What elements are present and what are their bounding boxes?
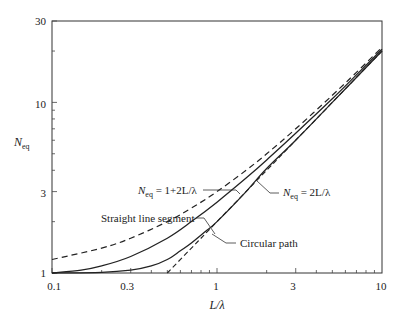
x-tick-1: 1	[213, 280, 219, 292]
x-tick-3: 3	[290, 280, 296, 292]
x-axis-label: L/λ	[208, 298, 224, 312]
y-tick-1: 1	[41, 267, 47, 279]
x-tick-0.3: 0.3	[120, 280, 134, 292]
annotation-1-plus-2L: Neq = 1+2L/λ	[137, 184, 198, 199]
y-tick-3: 3	[41, 187, 47, 199]
curve-1-plus-2L	[52, 47, 382, 259]
annotation-straight-line-segment: Straight line segment	[101, 212, 194, 224]
y-tick-30: 30	[35, 15, 47, 27]
annotation-2L: Neq = 2L/λ	[282, 186, 331, 201]
chart: 30 10 3 1 0.1 0.3 1 3 10 Neq L/λ Neq = 1…	[0, 0, 400, 324]
curve-straight-line-segment	[52, 49, 382, 273]
leader-1	[203, 190, 240, 194]
x-tick-10: 10	[376, 280, 388, 292]
annotation-circular-path: Circular path	[240, 237, 298, 249]
y-tick-10: 10	[35, 98, 47, 110]
curve-circular-path	[52, 51, 382, 273]
plot-frame	[52, 21, 382, 273]
x-tick-0.1: 0.1	[47, 280, 61, 292]
leader-4	[212, 234, 236, 243]
leader-3	[257, 181, 279, 193]
y-axis-label: Neq	[13, 135, 30, 151]
